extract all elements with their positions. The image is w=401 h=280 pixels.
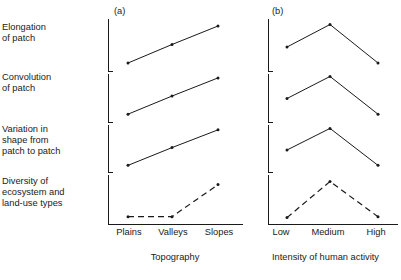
data-point-a-4-2 <box>171 215 174 218</box>
xtick-b-high: High <box>355 227 397 238</box>
axis-title-intensity: Intensity of human activity <box>250 252 401 263</box>
data-point-b-1-2 <box>329 23 332 26</box>
xtick-b-medium: Medium <box>303 227 353 238</box>
data-point-a-2-3 <box>217 76 220 79</box>
series-line-a-3 <box>128 130 218 166</box>
data-point-a-1-3 <box>217 25 220 28</box>
xtick-a-slopes: Slopes <box>196 227 242 238</box>
y-axis-segment-b-1 <box>269 19 274 72</box>
data-point-b-2-1 <box>286 97 289 100</box>
series-line-b-2 <box>287 76 378 114</box>
data-point-b-2-3 <box>377 113 380 116</box>
data-point-b-2-2 <box>329 75 332 78</box>
y-axis-segment-b-3 <box>269 125 274 173</box>
panel-a-axes <box>109 19 244 225</box>
xtick-a-plains: Plains <box>107 227 151 238</box>
axis-title-topography: Topography <box>107 252 243 263</box>
data-point-a-4-3 <box>217 183 220 186</box>
y-axis-segment-a-1 <box>109 19 114 72</box>
y-axis-segment-a-3 <box>109 125 114 173</box>
data-point-a-4-1 <box>127 215 130 218</box>
xtick-b-low: Low <box>260 227 302 238</box>
row-label-diversity: Diversity of ecosystem and land-use type… <box>2 176 102 210</box>
data-point-a-3-1 <box>127 164 130 167</box>
data-point-b-4-2 <box>329 180 332 183</box>
series-line-a-4 <box>128 185 218 217</box>
series-layer <box>127 23 380 219</box>
row-label-variation: Variation in shape from patch to patch <box>2 124 102 158</box>
row-label-elongation: Elongation of patch <box>2 22 102 44</box>
y-axis-segment-a-2 <box>109 74 114 123</box>
panel-b-axes <box>269 19 399 225</box>
data-point-a-2-1 <box>127 113 130 116</box>
data-point-a-3-2 <box>171 146 174 149</box>
data-point-b-4-1 <box>286 216 289 219</box>
row-label-convolution: Convolution of patch <box>2 72 102 94</box>
data-point-b-3-1 <box>286 149 289 152</box>
panel-caption-b: (b) <box>272 6 283 16</box>
data-point-b-1-1 <box>286 46 289 49</box>
panel-caption-a: (a) <box>114 6 125 16</box>
data-point-a-3-3 <box>217 128 220 131</box>
series-line-a-2 <box>128 78 218 114</box>
series-line-a-1 <box>128 26 218 63</box>
series-line-b-4 <box>287 182 378 218</box>
series-line-b-1 <box>287 25 378 64</box>
figure-root: Elongation of patch Convolution of patch… <box>0 0 401 280</box>
data-point-b-3-2 <box>329 127 332 130</box>
data-point-b-4-3 <box>377 215 380 218</box>
data-point-b-1-3 <box>377 62 380 65</box>
data-point-a-2-2 <box>171 95 174 98</box>
data-point-a-1-1 <box>127 62 130 65</box>
y-axis-segment-b-2 <box>269 74 274 123</box>
xtick-a-valleys: Valleys <box>150 227 196 238</box>
data-point-a-1-2 <box>171 43 174 46</box>
data-point-b-3-3 <box>377 164 380 167</box>
series-line-b-3 <box>287 128 378 165</box>
